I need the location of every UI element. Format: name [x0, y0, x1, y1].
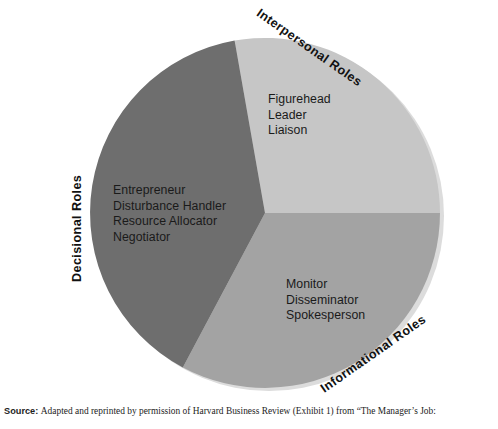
list-item: Leader: [268, 108, 331, 124]
list-item: Resource Allocator: [113, 214, 226, 230]
informational-roles-item-list: Monitor Disseminator Spokesperson: [286, 277, 365, 324]
source-text: Adapted and reprinted by permission of H…: [41, 406, 436, 416]
list-item: Disturbance Handler: [113, 199, 226, 215]
decisional-roles-item-list: Entrepreneur Disturbance Handler Resourc…: [113, 183, 226, 245]
category-label-decisional-roles: Decisional Roles: [70, 175, 84, 282]
list-item: Negotiator: [113, 230, 226, 246]
list-item: Liaison: [268, 123, 331, 139]
list-item: Spokesperson: [286, 308, 365, 324]
interpersonal-roles-item-list: Figurehead Leader Liaison: [268, 92, 331, 139]
source-label: Source:: [4, 406, 41, 416]
list-item: Disseminator: [286, 293, 365, 309]
source-note: Source: Adapted and reprinted by permiss…: [4, 406, 496, 418]
list-item: Entrepreneur: [113, 183, 226, 199]
list-item: Figurehead: [268, 92, 331, 108]
list-item: Monitor: [286, 277, 365, 293]
managerial-roles-figure: Figurehead Leader Liaison Entrepreneur D…: [0, 0, 498, 429]
